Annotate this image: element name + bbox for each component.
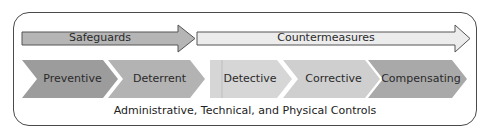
controls-footer: Administrative, Technical, and Physical … — [13, 104, 477, 117]
control-corrective: Corrective — [291, 72, 376, 85]
control-preventive: Preventive — [30, 72, 115, 85]
control-detective: Detective — [210, 72, 290, 85]
countermeasures-label: Countermeasures — [197, 31, 455, 44]
safeguards-label: Safeguards — [22, 31, 178, 44]
control-compensating: Compensating — [376, 72, 466, 85]
control-deterrent: Deterrent — [117, 72, 202, 85]
